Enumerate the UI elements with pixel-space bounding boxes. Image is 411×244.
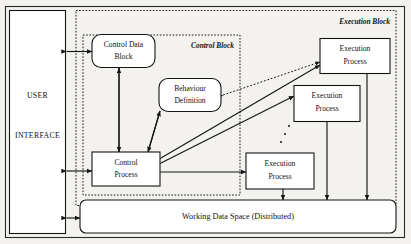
control-data-block-label-line1: Control Data: [104, 40, 144, 49]
execution-process-3-label-line1: Execution: [265, 159, 296, 168]
control-data-block-label-line2: Block: [114, 52, 132, 61]
user-interface-panel: [10, 11, 66, 234]
user-interface-label-line1: USER: [27, 91, 49, 100]
control-block-label: Control Block: [191, 41, 234, 50]
working-data-space-label: Working Data Space (Distributed): [182, 212, 294, 221]
diagram-root: USER INTERFACE Execution Block Control B…: [0, 0, 411, 244]
execution-process-1-label-line1: Execution: [340, 44, 371, 53]
user-interface-label-line2: INTERFACE: [15, 131, 60, 140]
control-process-label-line2: Process: [114, 170, 137, 179]
execution-block-label: Execution Block: [338, 17, 390, 26]
behaviour-definition-label-line2: Definition: [174, 96, 205, 105]
execution-process-2-label-line1: Execution: [312, 91, 343, 100]
execution-process-1-label-line2: Process: [343, 57, 366, 66]
execution-process-2-label-line2: Process: [315, 104, 338, 113]
execution-process-3-label-line2: Process: [268, 172, 291, 181]
behaviour-definition-label-line1: Behaviour: [174, 84, 206, 93]
architecture-diagram: USER INTERFACE Execution Block Control B…: [0, 0, 411, 244]
control-process-label-line1: Control: [114, 158, 137, 167]
